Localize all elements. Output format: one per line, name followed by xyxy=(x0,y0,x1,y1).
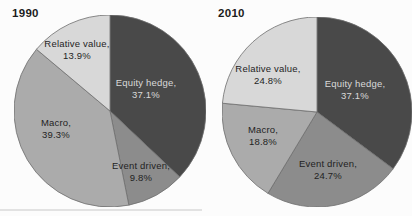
slice-label-equity-hedge-1990: Equity hedge,37.1% xyxy=(116,77,177,100)
slice-label-name: Event driven, xyxy=(112,160,170,172)
figure-canvas: 1990 2010 Equity hedge,37.1%Event driven… xyxy=(0,0,412,216)
slice-label-macro-1990: Macro,39.3% xyxy=(41,117,71,140)
slice-label-name: Relative value, xyxy=(235,63,300,75)
slice-label-value: 39.3% xyxy=(41,128,71,140)
slice-label-value: 18.8% xyxy=(248,135,278,147)
slice-label-equity-hedge-2010: Equity hedge,37.1% xyxy=(325,78,386,101)
slice-label-event-driven-2010: Event driven,24.7% xyxy=(299,158,357,181)
slice-label-value: 9.8% xyxy=(112,171,170,183)
slice-label-value: 24.8% xyxy=(235,74,300,86)
slice-label-value: 13.9% xyxy=(44,49,109,61)
slice-label-name: Event driven, xyxy=(299,158,357,170)
pie-chart-1990 xyxy=(14,15,206,207)
slice-label-relative-value-2010: Relative value,24.8% xyxy=(235,63,300,86)
bottom-rule xyxy=(0,209,202,211)
slice-label-value: 24.7% xyxy=(299,169,357,181)
slice-label-name: Macro, xyxy=(41,117,71,129)
slice-label-relative-value-1990: Relative value,13.9% xyxy=(44,38,109,61)
slice-label-name: Macro, xyxy=(248,124,278,136)
slice-label-value: 37.1% xyxy=(116,88,177,100)
slice-label-name: Relative value, xyxy=(44,38,109,50)
slice-label-macro-2010: Macro,18.8% xyxy=(248,124,278,147)
slice-label-value: 37.1% xyxy=(325,89,386,101)
slice-label-event-driven-1990: Event driven,9.8% xyxy=(112,160,170,183)
slice-label-name: Equity hedge, xyxy=(325,78,386,90)
slice-label-name: Equity hedge, xyxy=(116,77,177,89)
